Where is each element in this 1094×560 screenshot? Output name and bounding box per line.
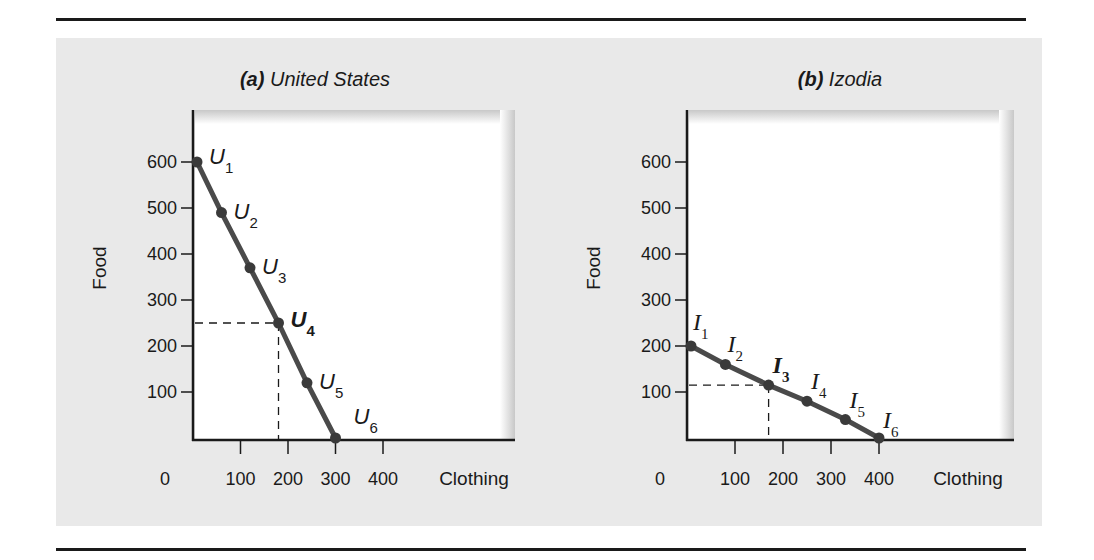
x-tick-label: 200 [768,469,798,489]
y-tick-label: 100 [147,382,177,402]
x-axis-title: Clothing [439,468,509,489]
data-point [302,377,313,388]
y-tick-label: 600 [147,152,177,172]
plot-shade-right-a [500,110,515,440]
data-point [245,262,256,273]
data-point [216,207,227,218]
y-tick-label: 500 [147,198,177,218]
x-tick-label: 100 [225,469,255,489]
y-axis-title: Food [89,246,110,289]
data-point [273,318,284,329]
y-tick-label: 400 [147,244,177,264]
data-point [330,433,341,444]
data-point [192,157,203,168]
x-tick-label: 100 [720,469,750,489]
x-axis-title: Clothing [933,468,1003,489]
x-tick-label-zero: 0 [655,469,665,489]
panel-united-states: (a) United States 1002003004005006001002… [89,68,515,489]
x-tick-label: 200 [273,469,303,489]
panel-izodia: (b) Izodia 10020030040050060010020030040… [583,68,1014,489]
data-point [874,433,885,444]
data-point [763,380,774,391]
plot-shade-top-a [195,110,515,124]
y-tick-label: 300 [147,290,177,310]
x-tick-label-zero: 0 [160,469,170,489]
x-tick-label: 400 [864,469,894,489]
plot-area-a [195,110,515,440]
y-tick-label: 100 [641,382,671,402]
x-tick-label: 400 [368,469,398,489]
y-tick-label: 500 [641,198,671,218]
y-tick-label: 200 [641,336,671,356]
data-point [720,359,731,370]
y-tick-label: 300 [641,290,671,310]
data-point [686,341,697,352]
figure-charts: (a) United States 1002003004005006001002… [0,0,1094,560]
y-tick-label: 200 [147,336,177,356]
data-point [802,396,813,407]
panel-b-title: (b) Izodia [798,68,882,90]
data-point [840,414,851,425]
plot-shade-top-b [689,110,1014,124]
x-tick-label: 300 [816,469,846,489]
y-tick-label: 600 [641,152,671,172]
panel-a-title: (a) United States [240,68,390,90]
y-tick-label: 400 [641,244,671,264]
plot-shade-right-b [999,110,1014,440]
y-axis-title: Food [583,246,604,289]
x-tick-label: 300 [320,469,350,489]
